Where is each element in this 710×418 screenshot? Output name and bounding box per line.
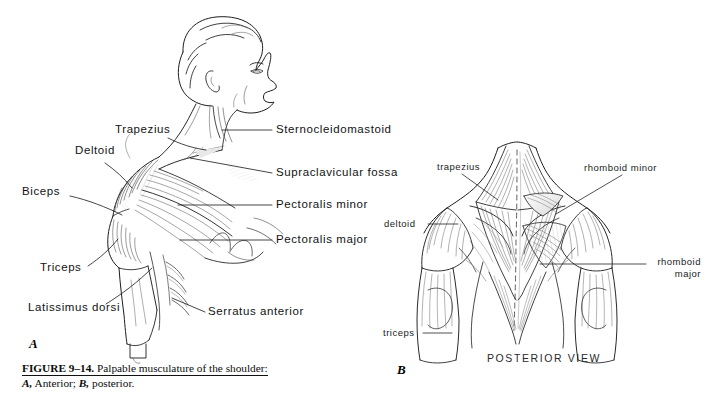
panel-letter-a: A <box>29 336 38 352</box>
label-deltoid-anterior: Deltoid <box>75 144 115 156</box>
figure-caption-a-letter: A, <box>22 377 32 389</box>
label-trapezius-anterior: Trapezius <box>115 123 170 135</box>
label-trapezius-posterior: trapezius <box>437 161 480 172</box>
label-supraclavicular-fossa: Supraclavicular fossa <box>276 166 398 178</box>
panel-b-drawing <box>417 142 617 363</box>
label-pectoralis-major: Pectoralis major <box>276 233 368 245</box>
panel-letter-b: B <box>397 362 406 378</box>
figure-caption-a-text: Anterior; <box>35 377 76 389</box>
figure-caption-b-text: posterior. <box>92 377 134 389</box>
label-triceps-anterior: Triceps <box>40 261 81 273</box>
posterior-view-caption: POSTERIOR VIEW <box>487 352 601 364</box>
figure-page: Trapezius Deltoid Biceps Triceps Latissi… <box>0 0 710 418</box>
label-rhomboid-major-line2: major <box>675 268 701 279</box>
figure-caption: FIGURE 9–14. Palpable musculature of the… <box>22 362 332 391</box>
figure-number: FIGURE 9–14. <box>22 362 94 374</box>
panel-a-leader-lines <box>70 130 272 312</box>
label-serratus-anterior: Serratus anterior <box>208 305 304 317</box>
label-deltoid-posterior: deltoid <box>384 218 416 229</box>
label-sternocleidomastoid: Sternocleidomastoid <box>276 123 392 135</box>
figure-caption-title: Palpable musculature of the shoulder: <box>97 362 268 374</box>
label-triceps-posterior: triceps <box>383 327 414 338</box>
label-rhomboid-major-line1: rhomboid <box>657 256 701 267</box>
figure-caption-line1: FIGURE 9–14. Palpable musculature of the… <box>22 362 268 376</box>
figure-caption-b-letter: B, <box>79 377 89 389</box>
label-biceps-anterior: Biceps <box>22 185 60 197</box>
figure-caption-line2: A, Anterior; B, posterior. <box>22 377 332 390</box>
label-pectoralis-minor: Pectoralis minor <box>276 198 368 210</box>
label-rhomboid-minor: rhomboid minor <box>584 162 657 173</box>
label-rhomboid-major: rhomboid major <box>637 256 701 280</box>
label-latissimus-dorsi-anterior: Latissimus dorsi <box>28 301 120 313</box>
